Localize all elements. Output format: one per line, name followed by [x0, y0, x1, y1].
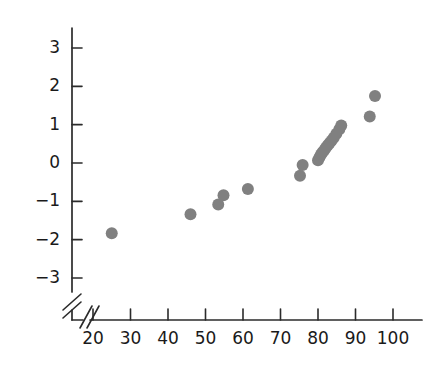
data-point [185, 208, 197, 220]
y-axis-tick-marks [72, 48, 82, 278]
y-tick-label: −1 [35, 190, 60, 210]
data-point [364, 111, 376, 123]
x-tick-label: 90 [345, 328, 367, 348]
data-points [106, 90, 381, 239]
data-point [106, 227, 118, 239]
x-tick-label: 20 [82, 328, 104, 348]
data-point [218, 189, 230, 201]
x-axis-tick-labels: 2030405060708090100 [82, 328, 409, 348]
y-axis-tick-labels: 3210−1−2−3 [35, 37, 60, 287]
data-point [242, 183, 254, 195]
y-tick-label: −2 [35, 229, 60, 249]
x-tick-label: 80 [307, 328, 329, 348]
plot-canvas: 3210−1−2−3 2030405060708090100 [0, 0, 431, 368]
x-tick-label: 70 [270, 328, 292, 348]
data-point [335, 119, 347, 131]
y-tick-label: 3 [49, 37, 60, 57]
x-axis: 2030405060708090100 [72, 306, 422, 348]
data-point [297, 159, 309, 171]
y-tick-label: 1 [49, 114, 60, 134]
x-tick-label: 100 [377, 328, 409, 348]
x-tick-label: 30 [120, 328, 142, 348]
scatter-plot-figure: 3210−1−2−3 2030405060708090100 [0, 0, 431, 368]
x-tick-label: 40 [157, 328, 179, 348]
x-tick-label: 50 [195, 328, 217, 348]
y-tick-label: 0 [49, 152, 60, 172]
x-axis-tick-marks [93, 309, 393, 320]
x-tick-label: 60 [232, 328, 254, 348]
y-axis: 3210−1−2−3 [35, 28, 82, 320]
data-point [294, 170, 306, 182]
data-point [369, 90, 381, 102]
y-tick-label: −3 [35, 267, 60, 287]
y-tick-label: 2 [49, 75, 60, 95]
x-axis-break-icon [80, 306, 99, 328]
